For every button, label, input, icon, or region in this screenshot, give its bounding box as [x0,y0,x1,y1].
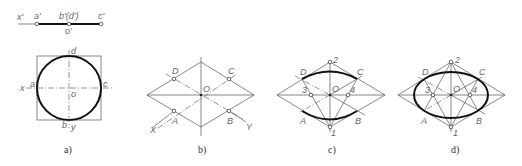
isometric-ellipse-construction-figure: x' a' b'(d') c' o' x a c d b y o a) D C … [0,0,522,166]
label-x-prime: x' [16,12,24,22]
label-B: B [476,116,482,126]
caption-a: a) [64,144,72,156]
panel-a: x' a' b'(d') c' o' x a c d b y o a) [16,11,112,156]
label-B: B [355,116,361,126]
label-B: B [227,116,233,126]
label-b: b [62,120,67,130]
arc-top [302,72,357,80]
axis-line [330,95,365,115]
point-A [172,109,176,113]
label-b-d-prime: b'(d') [59,11,78,21]
point-B [227,109,231,113]
point-c-prime [99,22,103,26]
label-3: 3 [302,85,307,95]
point-a-prime [35,22,39,26]
label-o-prime: o' [65,26,72,36]
caption-d: d) [451,144,459,156]
caption-c: c) [328,144,336,156]
label-a: a [30,79,35,89]
label-Y: Y [246,122,253,132]
label-2: 2 [454,55,460,65]
label-O: O [453,84,460,94]
label-4: 4 [350,85,355,95]
label-O: O [332,84,339,94]
axis-line [451,95,485,114]
panel-d: 2 D C 3 O 4 A B 1 d) [398,55,505,156]
panel-c: 2 D C 3 O 4 A B 1 c) [277,55,385,156]
axis-line-dashed-2 [422,95,451,112]
caption-b: b) [198,144,206,156]
label-C: C [357,67,364,77]
point-C [227,77,231,81]
label-1: 1 [331,128,336,138]
point-2 [328,60,332,64]
axis-x-line [158,74,237,128]
label-C: C [479,67,486,77]
label-4: 4 [472,85,477,95]
point-3 [431,93,435,97]
label-O: O [203,84,210,94]
label-x: x [19,83,25,93]
label-D: D [422,67,429,77]
axis-line-dashed-2 [300,95,330,112]
label-A: A [299,116,306,126]
label-A: A [420,116,427,126]
point-3 [309,93,313,97]
label-c: c [103,79,108,89]
label-d: d [71,46,77,56]
label-D: D [172,66,179,76]
label-X: X [149,125,157,135]
point-O [450,94,453,97]
label-c-prime: c' [98,11,105,21]
label-1: 1 [453,128,458,138]
label-o: o [71,89,76,99]
label-2: 2 [332,55,338,65]
label-3: 3 [425,85,430,95]
panel-b: D C O A B X Y b) [147,57,254,156]
arc-bottom [302,111,357,120]
point-O [200,94,203,97]
axis-line-dashed [295,76,330,95]
label-a-prime: a' [34,11,41,21]
point-O [329,94,332,97]
point-D [172,77,176,81]
point-2 [449,60,453,64]
label-C: C [228,66,235,76]
label-y: y [70,122,76,132]
label-A: A [171,116,178,126]
label-D: D [300,67,307,77]
